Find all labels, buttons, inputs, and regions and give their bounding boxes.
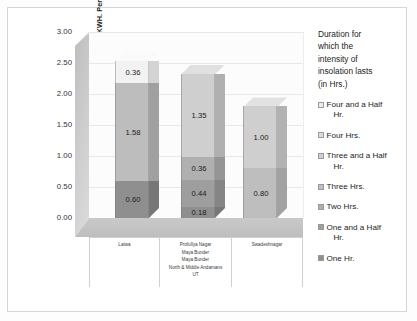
legend-item-label: Two Hrs. [327,202,359,212]
chart-legend: Duration forwhich theintensity ofinsolat… [318,28,417,264]
bar-side-face [277,106,287,218]
bar-segment-label: 1.35 [182,111,216,120]
legend-item-label: Three Hrs. [327,182,365,192]
bar-side-segment [149,83,159,181]
chart-floor [75,218,303,238]
legend-item-label: Four and a HalfHr. [327,100,383,121]
legend-item-label-main: Four and a Half [327,100,383,109]
legend-item[interactable]: One Hr. [318,254,417,264]
legend-item[interactable]: Three and a HalfHr. [318,151,417,172]
y-tick-label: 0.50 [42,183,72,191]
bar-side-segment [277,106,287,168]
legend-item-label-main: Three Hrs. [327,182,365,191]
bar-side-segment [149,61,159,83]
legend-swatch-icon [318,224,324,230]
legend-swatch-icon [318,153,324,159]
bar-side-segment [215,180,225,207]
bar-segment[interactable]: 0.60 [115,181,149,218]
legend-item-label-cont: Hr. [327,233,381,243]
y-tick-label: 2.50 [42,59,72,67]
x-axis-label: Profullya Nagar [160,242,231,248]
y-tick-label: 1.00 [42,152,72,160]
stacked-bar[interactable]: 1.000.80 [243,106,277,218]
legend-swatch-icon [318,102,324,108]
stacked-bar[interactable]: 0.361.580.60 [115,61,149,218]
y-axis-tick-labels: 3.002.502.001.501.000.500.00 [36,14,72,254]
x-axis-category-cell: Swadeshnagar [231,237,303,287]
gridline [89,32,303,33]
legend-item-label: Three and a HalfHr. [327,151,387,172]
bar-segment-label: 0.18 [182,208,216,217]
bar-segment[interactable]: 1.00 [243,106,277,168]
legend-item[interactable]: Three Hrs. [318,182,417,192]
bar-segment-label: 0.60 [116,195,150,204]
legend-item-label-main: Three and a Half [327,151,387,160]
bar-segment-label: 0.80 [244,189,278,198]
y-tick-label: 2.00 [42,90,72,98]
bar-segment[interactable]: 1.58 [115,83,149,181]
legend-item-label: One Hr. [327,254,355,264]
bar-segment-label: 1.00 [244,133,278,142]
legend-item[interactable]: Four Hrs. [318,131,417,141]
bar-side-segment [215,157,225,179]
bar-segment[interactable]: 0.44 [181,180,215,207]
bar-segment-label: 0.36 [116,67,150,76]
legend-swatch-icon [318,184,324,190]
legend-item-label-main: Four Hrs. [327,131,361,140]
x-axis-label: Swadeshnagar [232,242,302,248]
legend-item-label-cont: Hr. [327,162,387,172]
legend-item[interactable]: One and a HalfHr. [318,223,417,244]
legend-title: Duration forwhich theintensity ofinsolat… [318,28,417,90]
bar-segment[interactable]: 0.36 [181,157,215,179]
stacked-bar[interactable]: 1.350.360.440.18 [181,74,215,218]
y-tick-label: 0.00 [42,214,72,222]
legend-item-label-main: Two Hrs. [327,202,359,211]
legend-title-line: intensity of [318,53,417,65]
legend-item-label-cont: Hr. [327,110,383,120]
bar-segment-label: 0.44 [182,189,216,198]
x-axis-label: North & Middle Andamans [160,265,231,271]
x-axis-category-table: LatwaProfullya NagarMaya BunderMaya Bund… [75,237,303,287]
x-axis-label: Maya Bunder [160,257,231,263]
chart-plot-region: Intensity of Solar Radiation in KWH. Per… [18,14,308,306]
x-axis-label: UT [160,272,231,278]
bar-segment[interactable]: 1.35 [181,74,215,158]
bar-side-face [149,61,159,218]
legend-title-line: which the [318,40,417,52]
legend-item-label-main: One and a Half [327,223,381,232]
x-axis-label: Maya Bunder [160,250,231,256]
chart-frame: Intensity of Solar Radiation in KWH. Per… [7,7,407,312]
legend-item-label: Four Hrs. [327,131,361,141]
legend-item-label-main: One Hr. [327,254,355,263]
legend-items: Four and a HalfHr.Four Hrs.Three and a H… [318,100,417,264]
bar-side-face [215,74,225,218]
chart-side-wall [75,32,89,237]
bar-segment[interactable]: 0.80 [243,168,277,218]
legend-swatch-icon [318,132,324,138]
x-axis-category-cell: Profullya NagarMaya BunderMaya BunderNor… [159,237,231,287]
bar-segment-label: 0.36 [182,164,216,173]
plot-3d-box: 0.361.580.601.350.360.440.181.000.80 [75,32,303,237]
legend-swatch-icon [318,255,324,261]
bar-side-segment [215,74,225,158]
legend-swatch-icon [318,204,324,210]
bar-segment[interactable]: 0.36 [115,61,149,83]
bar-segment-label: 1.58 [116,127,150,136]
x-axis-label: Latwa [90,242,159,248]
y-tick-label: 3.00 [42,28,72,36]
legend-item[interactable]: Four and a HalfHr. [318,100,417,121]
x-axis-category-cell: Latwa [89,237,159,287]
legend-title-line: Duration for [318,28,417,40]
legend-item-label: One and a HalfHr. [327,223,381,244]
legend-title-line: (in Hrs.) [318,78,417,90]
y-tick-label: 1.50 [42,121,72,129]
bar-segment[interactable]: 0.18 [181,207,215,218]
legend-title-line: insolation lasts [318,65,417,77]
chart-screenshot: Intensity of Solar Radiation in KWH. Per… [0,0,417,321]
legend-item[interactable]: Two Hrs. [318,202,417,212]
